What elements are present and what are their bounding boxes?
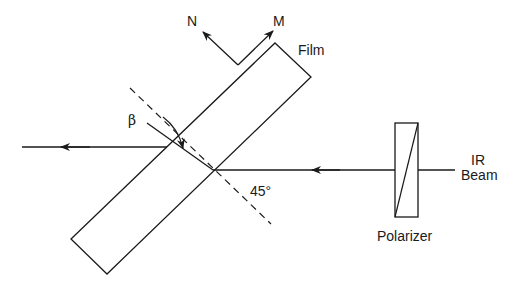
surface-normal-dashed <box>130 88 271 224</box>
m-axis-arrow <box>238 31 273 65</box>
film-slab <box>71 43 311 274</box>
diagram-canvas <box>0 0 518 289</box>
label-beam: Beam <box>461 168 498 183</box>
n-axis-arrow <box>203 32 238 65</box>
label-polarizer: Polarizer <box>377 229 432 244</box>
label-beta: β <box>128 113 136 128</box>
label-n: N <box>187 14 197 29</box>
label-m: M <box>273 14 285 29</box>
polarizer-diagonal <box>395 123 418 217</box>
label-ir: IR <box>471 153 485 168</box>
beta-angle-arc <box>163 117 183 148</box>
label-film: Film <box>298 43 324 58</box>
label-angle-45: 45° <box>250 184 271 199</box>
